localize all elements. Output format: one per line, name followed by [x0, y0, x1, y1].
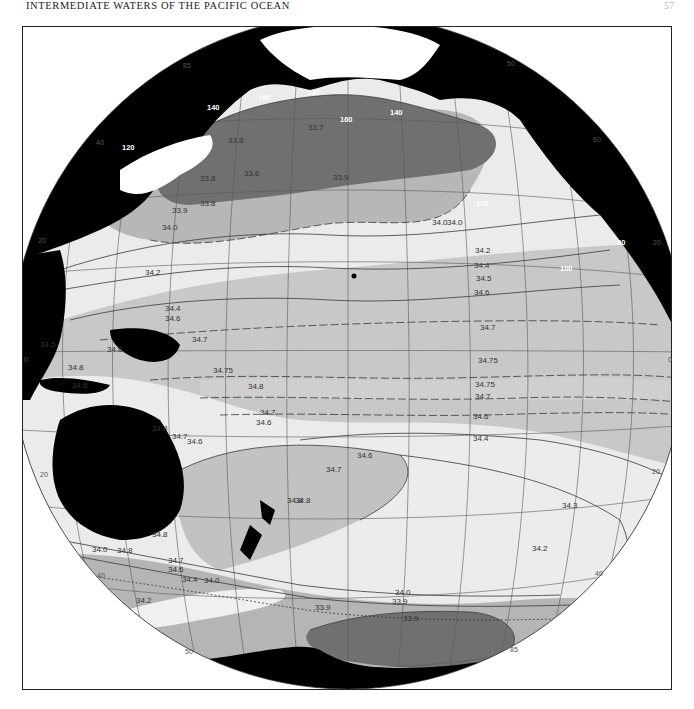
svg-text:20: 20	[653, 239, 661, 246]
svg-text:50: 50	[185, 648, 193, 655]
svg-text:34.8: 34.8	[152, 424, 168, 433]
svg-text:34.7: 34.7	[260, 408, 276, 417]
svg-text:160: 160	[340, 115, 353, 124]
svg-text:50: 50	[507, 60, 515, 67]
svg-text:20: 20	[40, 471, 48, 478]
hawaii	[352, 274, 357, 279]
svg-text:34.6: 34.6	[474, 288, 490, 297]
svg-text:180: 180	[307, 88, 320, 97]
svg-text:34.7: 34.7	[192, 335, 208, 344]
svg-text:33.7: 33.7	[308, 123, 324, 132]
svg-text:140: 140	[207, 103, 220, 112]
salinity-map: 140 160 180 160 140 120 120 40 20 85 50 …	[0, 0, 694, 709]
svg-text:60: 60	[593, 136, 601, 143]
svg-text:100: 100	[560, 264, 573, 273]
svg-text:80: 80	[617, 238, 625, 247]
svg-text:34.4: 34.4	[474, 261, 490, 270]
svg-text:34.8: 34.8	[68, 363, 84, 372]
svg-text:34.6: 34.6	[357, 451, 373, 460]
svg-text:34.8: 34.8	[248, 382, 264, 391]
svg-text:33.9: 33.9	[392, 597, 408, 606]
svg-text:34.5: 34.5	[476, 274, 492, 283]
svg-text:34.2: 34.2	[136, 596, 152, 605]
svg-text:160: 160	[258, 93, 271, 102]
svg-text:34.6: 34.6	[165, 314, 181, 323]
svg-text:34.7: 34.7	[480, 323, 496, 332]
svg-text:34.5: 34.5	[40, 340, 56, 349]
svg-text:34.8: 34.8	[152, 530, 168, 539]
svg-text:33.8: 33.8	[228, 136, 244, 145]
svg-text:34.8: 34.8	[117, 546, 133, 555]
svg-text:120: 120	[476, 199, 489, 208]
svg-text:85: 85	[510, 646, 518, 653]
svg-text:33.9: 33.9	[172, 206, 188, 215]
svg-text:34.0: 34.0	[395, 588, 411, 597]
svg-text:34.0: 34.0	[92, 545, 108, 554]
svg-text:85: 85	[183, 62, 191, 69]
svg-text:34.75: 34.75	[475, 380, 496, 389]
svg-text:40: 40	[595, 570, 603, 577]
svg-text:34.0: 34.0	[432, 218, 448, 227]
svg-text:34.2: 34.2	[145, 268, 161, 277]
svg-text:120: 120	[122, 143, 135, 152]
svg-text:20: 20	[652, 468, 660, 475]
svg-text:40: 40	[97, 572, 105, 579]
svg-text:34.6: 34.6	[256, 418, 272, 427]
svg-text:34.7: 34.7	[168, 556, 184, 565]
svg-text:34.6: 34.6	[187, 437, 203, 446]
svg-text:34.0: 34.0	[162, 223, 178, 232]
svg-text:33.9: 33.9	[315, 603, 331, 612]
svg-text:33.6: 33.6	[244, 169, 260, 178]
svg-text:34.6: 34.6	[473, 412, 489, 421]
svg-text:34.0: 34.0	[447, 218, 463, 227]
svg-text:34.7: 34.7	[172, 432, 188, 441]
svg-text:33.9: 33.9	[333, 173, 349, 182]
svg-text:40: 40	[96, 139, 104, 146]
svg-text:34.0: 34.0	[204, 576, 220, 585]
svg-text:34.4: 34.4	[182, 575, 198, 584]
svg-text:34.6: 34.6	[168, 565, 184, 574]
svg-text:34.8: 34.8	[295, 496, 311, 505]
svg-text:34.75: 34.75	[478, 356, 499, 365]
svg-text:20: 20	[38, 237, 46, 244]
svg-text:34.4: 34.4	[165, 304, 181, 313]
svg-text:34.2: 34.2	[475, 246, 491, 255]
svg-text:34.4: 34.4	[473, 434, 489, 443]
svg-text:140: 140	[390, 108, 403, 117]
svg-text:33.9: 33.9	[403, 614, 419, 623]
svg-text:34.6: 34.6	[72, 381, 88, 390]
svg-text:34.7: 34.7	[326, 465, 342, 474]
svg-text:34.2: 34.2	[532, 544, 548, 553]
svg-text:34.75: 34.75	[213, 366, 234, 375]
svg-text:33.8: 33.8	[200, 199, 216, 208]
svg-text:33.8: 33.8	[200, 174, 216, 183]
svg-text:34.7: 34.7	[475, 392, 491, 401]
svg-text:0: 0	[668, 356, 672, 363]
svg-text:34.6: 34.6	[107, 345, 123, 354]
svg-text:0: 0	[24, 356, 28, 363]
svg-text:34.3: 34.3	[562, 501, 578, 510]
